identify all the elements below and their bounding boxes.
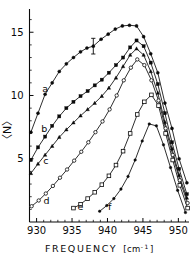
marker-d	[80, 150, 83, 153]
marker-e	[107, 174, 111, 178]
curve-label-e: e	[78, 201, 84, 212]
marker-a	[51, 81, 54, 84]
marker-f	[184, 211, 187, 214]
marker-a	[107, 33, 110, 36]
x-tick-label-950: 950	[169, 225, 188, 236]
marker-b	[178, 167, 181, 170]
marker-e	[143, 100, 147, 104]
marker-b	[163, 112, 166, 115]
marker-b	[79, 95, 82, 98]
marker-d	[122, 79, 125, 82]
marker-b	[36, 146, 39, 149]
marker-b	[156, 83, 159, 86]
marker-b	[65, 107, 68, 110]
marker-e	[164, 132, 168, 136]
marker-b	[170, 141, 173, 144]
marker-c	[149, 70, 153, 73]
marker-a	[114, 28, 117, 31]
marker-b	[135, 39, 138, 42]
x-tick-label-935: 935	[62, 225, 81, 236]
marker-f	[148, 123, 151, 126]
x-axis-title-text: FREQUENCY[cm-1]	[45, 243, 154, 255]
marker-e	[186, 206, 190, 210]
marker-b	[185, 193, 188, 196]
marker-d	[65, 168, 68, 171]
marker-b	[149, 61, 152, 64]
marker-a	[85, 47, 88, 50]
marker-a	[163, 102, 166, 105]
marker-d	[108, 108, 111, 111]
data-curves	[31, 25, 188, 212]
marker-d	[37, 199, 40, 202]
data-markers	[29, 24, 189, 214]
marker-b	[100, 78, 103, 81]
curve-label-b: b	[41, 123, 47, 134]
marker-b	[114, 64, 117, 67]
y-axis-title: 〈N〉	[1, 115, 14, 145]
y-tick-label-10: 10	[11, 90, 24, 101]
y-tick-label-15: 15	[11, 27, 24, 38]
marker-e	[157, 104, 161, 108]
marker-f	[176, 189, 179, 192]
marker-d	[171, 153, 174, 156]
marker-f	[127, 175, 130, 178]
marker-a	[149, 52, 152, 55]
marker-a	[156, 71, 159, 74]
marker-b	[93, 84, 96, 87]
marker-b	[72, 100, 75, 103]
curve-label-a: a	[42, 83, 48, 94]
marker-d	[51, 184, 54, 187]
x-axis-ticks	[37, 218, 186, 222]
marker-e	[121, 149, 125, 153]
marker-b	[58, 115, 61, 118]
marker-f	[155, 125, 158, 128]
marker-e	[100, 183, 104, 187]
marker-e	[150, 93, 154, 97]
marker-a	[29, 131, 32, 134]
marker-c	[135, 47, 139, 50]
marker-d	[129, 66, 132, 69]
marker-b	[122, 56, 125, 59]
marker-f	[120, 188, 123, 191]
marker-a	[170, 127, 173, 130]
marker-e	[72, 206, 76, 210]
marker-e	[178, 184, 182, 188]
marker-a	[135, 24, 138, 27]
marker-d	[178, 179, 181, 182]
x-tick-label-930: 930	[27, 225, 46, 236]
marker-b	[51, 124, 54, 127]
x-axis-tick-labels: 930935940945950	[27, 225, 188, 236]
marker-d	[150, 79, 153, 82]
x-axis-title: FREQUENCY[cm-1]	[45, 243, 154, 255]
marker-b	[107, 71, 110, 74]
marker-e	[128, 132, 132, 136]
marker-d	[186, 201, 189, 204]
line-chart: abcdef 51015 930935940945950 〈N〉 FREQUEN…	[0, 0, 192, 262]
marker-d	[72, 159, 75, 162]
marker-f	[141, 140, 144, 143]
y-tick-label-5: 5	[17, 153, 23, 164]
marker-a	[58, 70, 61, 73]
marker-d	[30, 204, 33, 207]
marker-f	[162, 144, 165, 147]
marker-f	[98, 210, 101, 213]
marker-d	[87, 141, 90, 144]
curve-e	[73, 95, 187, 208]
marker-b	[44, 135, 47, 138]
marker-b	[86, 90, 89, 93]
marker-e	[93, 190, 97, 194]
y-axis-ticks	[30, 20, 34, 210]
marker-f	[134, 159, 137, 162]
curve-label-c: c	[43, 155, 48, 166]
marker-a	[79, 50, 82, 53]
marker-d	[94, 130, 97, 133]
marker-f	[169, 166, 172, 169]
marker-b	[142, 45, 145, 48]
marker-d	[157, 99, 160, 102]
x-axis-unit-exponent: -1	[141, 243, 150, 250]
marker-d	[115, 94, 118, 97]
x-axis-unit-close: ]	[150, 244, 154, 254]
marker-a	[121, 24, 124, 27]
marker-c	[156, 91, 160, 94]
marker-a	[185, 181, 188, 184]
